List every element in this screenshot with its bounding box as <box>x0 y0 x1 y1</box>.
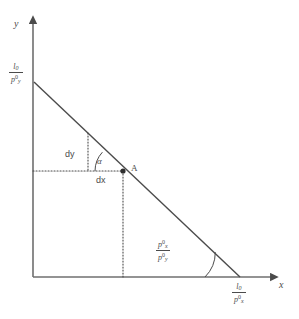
slope-angle-label: p0x p0y <box>156 239 170 262</box>
point-a-marker <box>120 168 125 173</box>
slope-angle-numerator: p0x <box>156 239 170 251</box>
x-intercept-label: l0 p0x <box>232 283 246 304</box>
x-intercept-fraction: l0 p0x <box>232 283 246 304</box>
y-intercept-fraction: l0 p0y <box>9 63 23 84</box>
point-a-label: A <box>131 164 138 173</box>
x-intercept-numerator: l0 <box>232 283 246 293</box>
x-axis-label: x <box>279 280 283 290</box>
dx-label: dx <box>96 176 106 185</box>
y-intercept-numerator: l0 <box>9 63 23 73</box>
diagram-svg <box>0 0 299 319</box>
slope-angle-denominator: p0y <box>156 251 170 262</box>
y-axis-label: y <box>14 19 18 29</box>
slope-angle-fraction: p0x p0y <box>156 239 170 262</box>
figure-canvas: y x l0 p0y l0 p0x p0x p0y dy dx α A <box>0 0 299 319</box>
y-intercept-denominator: p0y <box>9 73 23 84</box>
y-intercept-label: l0 p0y <box>9 63 23 84</box>
slope-angle-arc <box>205 252 215 277</box>
dy-label: dy <box>65 150 75 159</box>
budget-line <box>34 82 240 277</box>
alpha-angle-label: α <box>97 157 102 166</box>
x-intercept-denominator: p0x <box>232 293 246 304</box>
